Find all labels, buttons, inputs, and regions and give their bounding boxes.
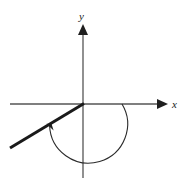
y-axis-arrowhead	[78, 24, 88, 35]
x-axis-arrowhead	[157, 99, 168, 109]
angle-sweep-arc	[50, 104, 128, 163]
coordinate-axes-figure: y x	[0, 0, 187, 186]
terminal-side-ray	[10, 104, 84, 149]
figure-container: y x	[0, 0, 187, 186]
x-axis-label: x	[171, 98, 177, 110]
y-axis-label: y	[78, 10, 84, 22]
